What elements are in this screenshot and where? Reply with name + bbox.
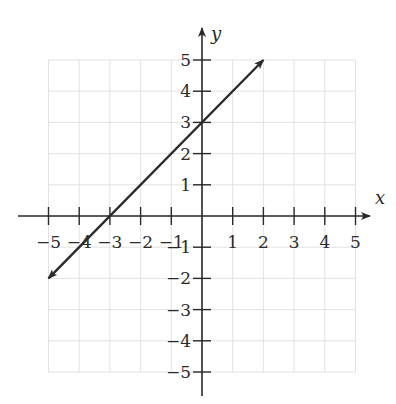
y-tick-label: −5 (166, 362, 191, 382)
y-tick-label: −1 (166, 237, 191, 257)
y-tick-label: −2 (166, 268, 191, 288)
x-axis-label: x (375, 187, 385, 208)
y-tick-label: −3 (166, 300, 191, 320)
x-tick-label: −2 (128, 232, 153, 252)
x-tick-label: 3 (289, 232, 300, 252)
x-tick-label: 2 (258, 232, 269, 252)
x-tick-label: 5 (350, 232, 361, 252)
axis-labels: −5−4−3−2−11234554321−1−2−3−4−5xy (36, 23, 385, 382)
y-tick-label: 1 (180, 175, 191, 195)
y-tick-label: −4 (166, 331, 191, 351)
x-tick-label: 1 (227, 232, 238, 252)
y-tick-label: 5 (180, 50, 191, 70)
y-axis-label: y (210, 23, 222, 44)
x-tick-label: −4 (67, 232, 92, 252)
y-tick-label: 4 (180, 81, 191, 101)
x-tick-label: −3 (97, 232, 122, 252)
y-tick-label: 3 (180, 112, 191, 132)
coordinate-plane: −5−4−3−2−11234554321−1−2−3−4−5xy (0, 0, 396, 404)
x-tick-label: −5 (36, 232, 61, 252)
x-tick-label: 4 (319, 232, 330, 252)
y-tick-label: 2 (180, 144, 191, 164)
